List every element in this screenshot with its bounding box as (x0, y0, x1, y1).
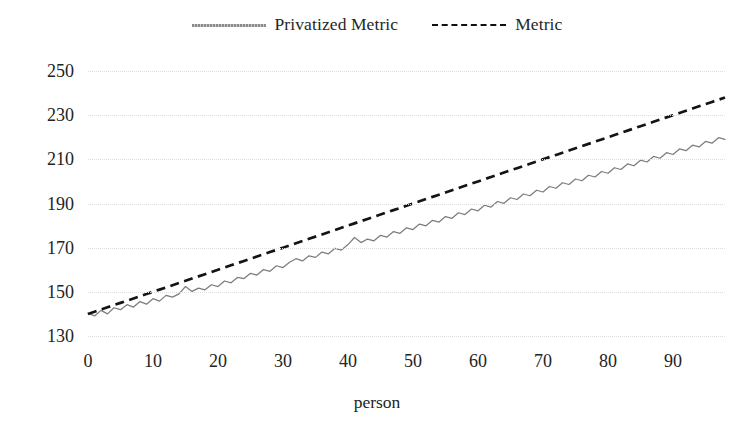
chart-figure: Privatized Metric Metric person 13015017… (0, 0, 754, 439)
y-axis-tick-label: 210 (8, 150, 74, 168)
series-line-metric (88, 98, 725, 314)
x-axis-tick-label: 10 (133, 352, 173, 370)
x-axis-tick-label: 80 (588, 352, 628, 370)
legend-label-privatized-metric: Privatized Metric (275, 16, 399, 34)
y-axis-tick-label: 130 (8, 327, 74, 345)
x-axis-tick-label: 70 (523, 352, 563, 370)
legend-item-metric: Metric (432, 16, 562, 34)
x-axis-tick-label: 0 (68, 352, 108, 370)
chart-legend: Privatized Metric Metric (0, 10, 754, 40)
y-axis-tick-label: 170 (8, 239, 74, 257)
gridline-y (88, 71, 725, 72)
x-axis-tick-label: 60 (458, 352, 498, 370)
gridline-y (88, 159, 725, 160)
x-axis-tick-label: 90 (653, 352, 693, 370)
x-axis-tick-label: 20 (198, 352, 238, 370)
y-axis-tick-label: 230 (8, 106, 74, 124)
legend-label-metric: Metric (515, 16, 562, 34)
x-axis-tick-label: 50 (393, 352, 433, 370)
y-axis-tick-label: 250 (8, 62, 74, 80)
y-axis-tick-label: 150 (8, 283, 74, 301)
gridline-y (88, 248, 725, 249)
gridline-y (88, 115, 725, 116)
x-axis-tick-label: 40 (328, 352, 368, 370)
gridline-y (88, 204, 725, 205)
legend-item-privatized-metric: Privatized Metric (192, 16, 399, 34)
dashed-line-swatch-icon (432, 24, 506, 26)
x-axis-title: person (0, 392, 754, 413)
gridline-y (88, 336, 725, 337)
gridline-y (88, 292, 725, 293)
y-axis-tick-label: 190 (8, 195, 74, 213)
x-axis-tick-label: 30 (263, 352, 303, 370)
series-line-privatized-metric (88, 138, 725, 316)
solid-line-swatch-icon (192, 24, 266, 27)
plot-area (88, 71, 725, 336)
